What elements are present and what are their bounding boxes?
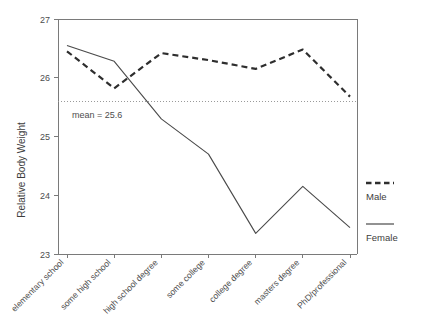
x-category-label-4: college degree	[207, 257, 254, 304]
x-category-label-1: some high school	[58, 257, 112, 311]
legend-label-female: Female	[366, 232, 398, 243]
x-category-label-0: elementary school	[9, 257, 65, 313]
legend-label-male: Male	[366, 191, 387, 202]
chart-figure: 27 26 25 24 23 mean = 25.6 Relative Body…	[0, 0, 432, 330]
y-tick-label-26: 26	[40, 73, 50, 83]
mean-annotation-label: mean = 25.6	[72, 110, 122, 120]
chart-legend: Male Female	[366, 183, 398, 243]
y-tick-label-23: 23	[40, 250, 50, 260]
x-category-label-3: some college	[164, 257, 207, 300]
line-chart: 27 26 25 24 23 mean = 25.6 Relative Body…	[0, 0, 432, 330]
series-line-male	[67, 50, 350, 97]
x-category-label-6: PhD/professional	[295, 257, 348, 310]
y-tick-marks	[54, 19, 58, 254]
series-line-female	[67, 45, 350, 233]
y-tick-label-24: 24	[40, 191, 50, 201]
x-tick-marks	[67, 254, 350, 258]
y-axis-title: Relative Body Weight	[16, 122, 27, 218]
y-tick-label-27: 27	[40, 15, 50, 25]
y-tick-label-25: 25	[40, 132, 50, 142]
x-category-label-5: masters degree	[252, 257, 301, 306]
